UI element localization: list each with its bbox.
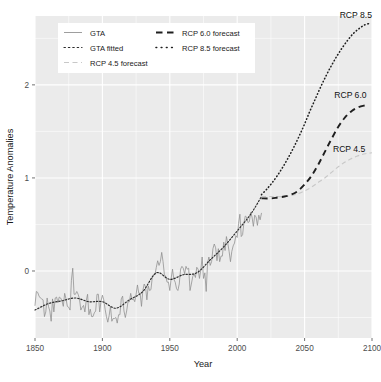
x-axis-title: Year xyxy=(194,359,213,369)
chart-container: RCP 8.5 RCP 6.0 RCP 4.5 GTA GTA fitted R… xyxy=(0,0,381,382)
annotation-rcp45: RCP 4.5 xyxy=(333,144,366,154)
x-tick-label-2100: 2100 xyxy=(363,344,381,353)
x-tick-label-1900: 1900 xyxy=(93,344,112,353)
x-tick-label-1950: 1950 xyxy=(161,344,180,353)
y-axis-title: Temperature Anomalies xyxy=(5,128,15,225)
annotation-rcp85: RCP 8.5 xyxy=(340,10,373,20)
y-tick-label-2: 2 xyxy=(24,81,29,90)
legend-label-gta-fitted: GTA fitted xyxy=(90,44,123,53)
legend-item-rcp45[interactable]: RCP 4.5 forecast xyxy=(62,57,149,68)
legend-item-gta-fitted[interactable]: GTA fitted xyxy=(62,42,123,53)
chart-legend: GTA GTA fitted RCP 4.5 forecast RCP 6.0 … xyxy=(58,23,255,73)
annotation-rcp60: RCP 6.0 xyxy=(334,90,367,100)
legend-label-rcp85: RCP 8.5 forecast xyxy=(182,44,241,53)
legend-item-rcp60[interactable]: RCP 6.0 forecast xyxy=(154,27,241,38)
x-tick-label-1850: 1850 xyxy=(26,344,45,353)
x-tick-label-2050: 2050 xyxy=(295,344,314,353)
x-axis: 185019001950200020502100 xyxy=(26,338,381,353)
legend-label-rcp45: RCP 4.5 forecast xyxy=(90,59,149,68)
legend-label-gta: GTA xyxy=(90,29,106,38)
legend-item-rcp85[interactable]: RCP 8.5 forecast xyxy=(154,42,241,53)
y-tick-label-0: 0 xyxy=(24,267,29,276)
x-tick-label-2000: 2000 xyxy=(228,344,247,353)
legend-item-gta[interactable]: GTA xyxy=(62,27,106,38)
legend-label-rcp60: RCP 6.0 forecast xyxy=(182,29,241,38)
y-axis: 012 xyxy=(24,81,35,276)
y-tick-label-1: 1 xyxy=(24,174,29,183)
temperature-anomalies-chart: RCP 8.5 RCP 6.0 RCP 4.5 GTA GTA fitted R… xyxy=(0,0,381,382)
